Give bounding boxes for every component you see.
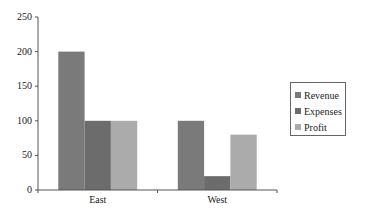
x-category-label: West	[187, 195, 247, 205]
y-tick-label: 50	[2, 150, 32, 160]
legend-label-revenue: Revenue	[304, 90, 339, 101]
y-tick-label: 250	[2, 12, 32, 22]
y-tick-label: 100	[2, 116, 32, 126]
legend-item-profit: Profit	[295, 123, 327, 133]
legend-swatch-expenses	[295, 108, 301, 114]
legend-item-revenue: Revenue	[295, 91, 339, 101]
legend-swatch-revenue	[295, 92, 301, 98]
legend-swatch-profit	[295, 124, 301, 130]
bar-revenue-west	[178, 121, 204, 190]
legend-item-expenses: Expenses	[295, 107, 342, 117]
legend-label-profit: Profit	[304, 122, 327, 133]
y-tick-label: 150	[2, 81, 32, 91]
y-tick-label: 0	[2, 185, 32, 195]
y-tick-label: 200	[2, 47, 32, 57]
bar-revenue-east	[58, 52, 84, 190]
bar-profit-west	[230, 135, 256, 190]
bar-expenses-east	[85, 121, 111, 190]
bar-expenses-west	[204, 176, 230, 190]
legend-label-expenses: Expenses	[304, 106, 342, 117]
legend: Revenue Expenses Profit	[290, 82, 346, 136]
x-category-label: East	[68, 195, 128, 205]
bar-profit-east	[111, 121, 137, 190]
bar-chart: 050100150200250 EastWest Revenue Expense…	[0, 0, 367, 216]
